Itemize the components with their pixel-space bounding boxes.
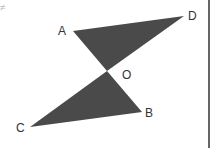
triangle-aod [73,16,184,71]
point-label-d: D [188,9,197,23]
point-label-b: B [145,106,153,120]
point-label-o: O [122,68,131,82]
geometry-figure: ≠ A D O B C [0,0,212,148]
point-label-c: C [16,121,25,135]
point-label-a: A [58,24,66,38]
corner-artifact: ≠ [0,2,6,13]
